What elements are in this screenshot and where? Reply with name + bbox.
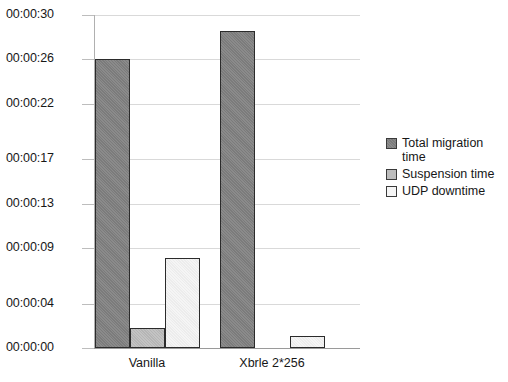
bar-udp[interactable] bbox=[165, 258, 200, 348]
legend-swatch-total bbox=[386, 138, 397, 149]
legend-label: UDP downtime bbox=[402, 184, 485, 198]
legend-entry[interactable]: Total migration time bbox=[386, 136, 508, 164]
y-axis-line bbox=[94, 15, 95, 349]
legend-entry[interactable]: Suspension time bbox=[386, 167, 508, 181]
y-axis-tick bbox=[82, 104, 94, 105]
legend-entry[interactable]: UDP downtime bbox=[386, 184, 508, 198]
y-axis-tick-label: 00:00:04 bbox=[6, 296, 80, 310]
y-axis-tick-label: 00:00:30 bbox=[6, 7, 80, 21]
gridline bbox=[94, 15, 360, 16]
y-axis-labels: 00:00:3000:00:2600:00:2200:00:1700:00:13… bbox=[4, 0, 80, 382]
y-axis-tick-label: 00:00:22 bbox=[6, 96, 80, 110]
y-axis-tick bbox=[82, 348, 94, 349]
y-axis-tick bbox=[82, 159, 94, 160]
bar-total[interactable] bbox=[220, 31, 255, 349]
bar-chart: 00:00:3000:00:2600:00:2200:00:1700:00:13… bbox=[0, 0, 508, 382]
y-axis-tick bbox=[82, 304, 94, 305]
y-axis-tick-label: 00:00:17 bbox=[6, 151, 80, 165]
bar-suspension[interactable] bbox=[130, 328, 165, 348]
y-axis-tick-label: 00:00:13 bbox=[6, 196, 80, 210]
bar-total[interactable] bbox=[95, 59, 130, 348]
x-axis-tick-label: Vanilla bbox=[87, 356, 207, 370]
y-axis-tick bbox=[82, 15, 94, 16]
y-axis-tick-label: 00:00:09 bbox=[6, 240, 80, 254]
legend-swatch-suspension bbox=[386, 169, 397, 180]
chart-legend: Total migration timeSuspension timeUDP d… bbox=[386, 136, 508, 201]
x-axis-tick-label: Xbrle 2*256 bbox=[212, 356, 332, 370]
plot-area bbox=[94, 15, 360, 348]
y-axis-tick bbox=[82, 248, 94, 249]
y-axis-tick bbox=[82, 59, 94, 60]
legend-label: Suspension time bbox=[402, 167, 494, 181]
y-axis-tick-label: 00:00:00 bbox=[6, 340, 80, 354]
y-axis-tick bbox=[82, 204, 94, 205]
legend-label: Total migration time bbox=[402, 136, 508, 164]
legend-swatch-udp bbox=[386, 186, 397, 197]
x-axis-line bbox=[82, 348, 360, 349]
y-axis-tick-label: 00:00:26 bbox=[6, 51, 80, 65]
bar-udp[interactable] bbox=[290, 336, 325, 348]
